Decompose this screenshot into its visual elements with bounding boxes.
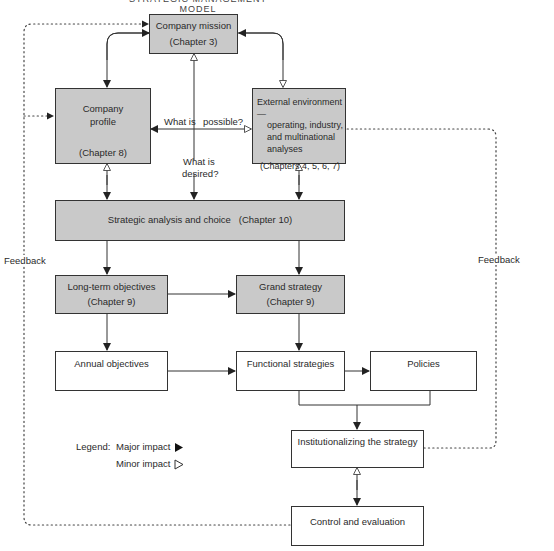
feedback-right-label: Feedback	[478, 254, 520, 265]
long-term-chapter: (Chapter 9)	[87, 296, 135, 309]
desired-label-1: What is	[183, 156, 215, 167]
possible-label: possible?	[203, 116, 243, 127]
what-is-label: What is	[164, 116, 196, 127]
hollow-triangle-icon	[174, 459, 184, 470]
functional-strategies-label: Functional strategies	[247, 358, 335, 371]
filled-triangle-icon	[174, 442, 184, 453]
policies-label: Policies	[407, 358, 440, 371]
grand-strategy-label: Grand strategy	[259, 281, 322, 294]
company-profile-label-1: Company	[83, 103, 124, 116]
legend-major-label: Major impact	[116, 441, 170, 452]
long-term-label: Long-term objectives	[67, 281, 155, 294]
external-line-3: and multinational	[257, 132, 335, 144]
legend-label: Legend:	[76, 441, 110, 452]
desired-label-2: desired?	[182, 168, 218, 179]
company-mission-chapter: (Chapter 3)	[169, 36, 217, 49]
legend-minor-label: Minor impact	[116, 458, 170, 469]
feedback-left-label: Feedback	[4, 255, 46, 266]
annual-objectives-box: Annual objectives	[55, 351, 168, 391]
company-mission-label: Company mission	[156, 20, 232, 33]
external-line-1: External environment—	[257, 97, 345, 120]
policies-box: Policies	[370, 351, 477, 391]
company-profile-box: Company profile (Chapter 8)	[55, 88, 151, 164]
company-profile-chapter: (Chapter 8)	[79, 147, 127, 160]
external-chapter: (Chapters 4, 5, 6, 7)	[257, 161, 340, 173]
strategic-analysis-box: Strategic analysis and choice (Chapter 1…	[55, 200, 345, 241]
external-environment-box: External environment— operating, industr…	[252, 88, 346, 164]
control-evaluation-label: Control and evaluation	[310, 516, 405, 529]
grand-strategy-chapter: (Chapter 9)	[266, 296, 314, 309]
external-line-4: analyses	[257, 144, 303, 156]
functional-strategies-box: Functional strategies	[236, 351, 345, 391]
control-evaluation-box: Control and evaluation	[291, 506, 424, 546]
strategic-analysis-label: Strategic analysis and choice (Chapter 1…	[108, 214, 292, 227]
institutionalizing-label: Institutionalizing the strategy	[298, 436, 418, 449]
annual-objectives-label: Annual objectives	[74, 358, 148, 371]
external-line-2: operating, industry,	[257, 120, 343, 132]
grand-strategy-box: Grand strategy (Chapter 9)	[236, 275, 345, 314]
company-mission-box: Company mission (Chapter 3)	[149, 14, 238, 54]
long-term-objectives-box: Long-term objectives (Chapter 9)	[55, 275, 168, 314]
company-profile-label-2: profile	[90, 116, 116, 129]
institutionalizing-box: Institutionalizing the strategy	[291, 430, 424, 468]
